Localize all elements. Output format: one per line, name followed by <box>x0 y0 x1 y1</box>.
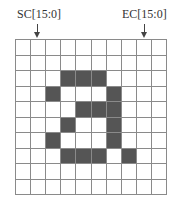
pixel-cell-empty <box>31 164 46 180</box>
pixel-cell-filled <box>92 102 107 118</box>
pixel-cell-filled <box>46 87 61 103</box>
pixel-cell-empty <box>122 40 137 56</box>
pixel-cell-empty <box>92 56 107 72</box>
pixel-cell-empty <box>122 56 137 72</box>
pixel-cell-empty <box>16 56 31 72</box>
pixel-cell-empty <box>137 56 152 72</box>
pixel-cell-empty <box>76 56 91 72</box>
pixel-cell-empty <box>137 133 152 149</box>
pixel-cell-empty <box>61 102 76 118</box>
pixel-cell-empty <box>31 133 46 149</box>
pixel-cell-filled <box>107 118 122 134</box>
pixel-cell-empty <box>46 71 61 87</box>
pixel-cell-empty <box>16 87 31 103</box>
pixel-cell-empty <box>46 56 61 72</box>
pixel-cell-filled <box>61 118 76 134</box>
pixel-cell-empty <box>152 87 167 103</box>
pixel-cell-empty <box>152 102 167 118</box>
pixel-cell-empty <box>122 133 137 149</box>
end-column-label: EC[15:0] <box>122 7 167 21</box>
end-column-arrow-icon <box>144 24 145 33</box>
pixel-cell-filled <box>76 71 91 87</box>
pixel-cell-empty <box>152 71 167 87</box>
pixel-cell-empty <box>107 71 122 87</box>
pixel-cell-empty <box>46 40 61 56</box>
pixel-cell-empty <box>122 164 137 180</box>
pixel-cell-filled <box>107 102 122 118</box>
pixel-cell-empty <box>152 56 167 72</box>
pixel-cell-empty <box>46 149 61 165</box>
pixel-cell-empty <box>76 40 91 56</box>
pixel-cell-empty <box>152 118 167 134</box>
pixel-cell-empty <box>31 71 46 87</box>
start-column-arrow-icon <box>37 24 38 33</box>
pixel-cell-empty <box>137 180 152 196</box>
pixel-cell-empty <box>76 180 91 196</box>
pixel-cell-filled <box>61 71 76 87</box>
pixel-cell-filled <box>76 102 91 118</box>
pixel-grid <box>15 39 167 195</box>
pixel-cell-empty <box>92 40 107 56</box>
pixel-cell-empty <box>137 164 152 180</box>
pixel-cell-empty <box>122 71 137 87</box>
pixel-cell-empty <box>16 71 31 87</box>
pixel-cell-empty <box>31 40 46 56</box>
pixel-cell-empty <box>137 71 152 87</box>
pixel-cell-empty <box>16 133 31 149</box>
pixel-cell-empty <box>122 87 137 103</box>
start-column-label: SC[15:0] <box>17 7 61 21</box>
pixel-cell-empty <box>152 149 167 165</box>
pixel-cell-filled <box>76 149 91 165</box>
pixel-cell-empty <box>61 133 76 149</box>
pixel-cell-empty <box>92 133 107 149</box>
pixel-cell-filled <box>92 71 107 87</box>
pixel-cell-empty <box>16 102 31 118</box>
pixel-cell-empty <box>92 87 107 103</box>
pixel-cell-filled <box>92 149 107 165</box>
pixel-cell-empty <box>92 180 107 196</box>
pixel-cell-empty <box>76 133 91 149</box>
pixel-cell-empty <box>61 164 76 180</box>
pixel-cell-empty <box>137 102 152 118</box>
pixel-cell-empty <box>76 87 91 103</box>
pixel-cell-filled <box>122 149 137 165</box>
pixel-cell-empty <box>31 118 46 134</box>
pixel-cell-empty <box>46 164 61 180</box>
pixel-cell-empty <box>107 40 122 56</box>
pixel-cell-empty <box>76 118 91 134</box>
pixel-cell-empty <box>61 87 76 103</box>
pixel-cell-empty <box>16 164 31 180</box>
pixel-cell-empty <box>107 180 122 196</box>
pixel-cell-empty <box>46 118 61 134</box>
pixel-cell-empty <box>61 56 76 72</box>
pixel-cell-empty <box>76 164 91 180</box>
pixel-cell-empty <box>31 56 46 72</box>
pixel-cell-empty <box>46 180 61 196</box>
pixel-cell-empty <box>16 118 31 134</box>
pixel-cell-empty <box>107 149 122 165</box>
pixel-cell-filled <box>61 149 76 165</box>
pixel-cell-empty <box>61 180 76 196</box>
pixel-cell-empty <box>107 56 122 72</box>
pixel-cell-empty <box>152 180 167 196</box>
pixel-cell-empty <box>16 149 31 165</box>
pixel-cell-empty <box>16 40 31 56</box>
pixel-cell-empty <box>137 40 152 56</box>
pixel-cell-empty <box>92 164 107 180</box>
pixel-cell-empty <box>16 180 31 196</box>
pixel-cell-empty <box>92 118 107 134</box>
pixel-cell-empty <box>46 102 61 118</box>
pixel-cell-empty <box>107 164 122 180</box>
pixel-cell-empty <box>31 102 46 118</box>
pixel-cell-empty <box>152 133 167 149</box>
pixel-cell-empty <box>122 118 137 134</box>
pixel-cell-empty <box>122 180 137 196</box>
pixel-cell-empty <box>31 87 46 103</box>
pixel-cell-empty <box>152 164 167 180</box>
pixel-cell-empty <box>31 149 46 165</box>
pixel-cell-filled <box>46 133 61 149</box>
pixel-cell-filled <box>107 133 122 149</box>
pixel-cell-empty <box>137 87 152 103</box>
pixel-cell-empty <box>137 149 152 165</box>
pixel-cell-empty <box>122 102 137 118</box>
